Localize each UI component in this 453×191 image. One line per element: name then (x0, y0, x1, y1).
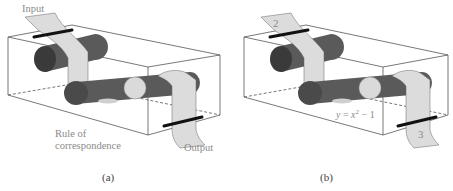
rule-label-line2: correspondence (55, 140, 121, 151)
input-value: 2 (273, 17, 279, 29)
function-machine-diagram (226, 0, 452, 191)
function-machine-diagram (0, 0, 226, 191)
panel-caption-b: (b) (320, 171, 333, 183)
input-label: Input (22, 3, 44, 14)
panel-b-function-machine-example: 2 y = x2 − 1 3 (b) (226, 0, 452, 191)
eq-equals: = (340, 109, 351, 120)
panel-a-function-machine: Input Rule of correspondence Output (a) (0, 0, 226, 191)
rule-label-line1: Rule of (55, 128, 86, 139)
output-value: 3 (418, 128, 424, 140)
output-label: Output (184, 142, 213, 153)
rule-equation: y = x2 − 1 (336, 108, 375, 120)
eq-tail: − 1 (359, 109, 375, 120)
panel-caption-a: (a) (102, 171, 114, 183)
